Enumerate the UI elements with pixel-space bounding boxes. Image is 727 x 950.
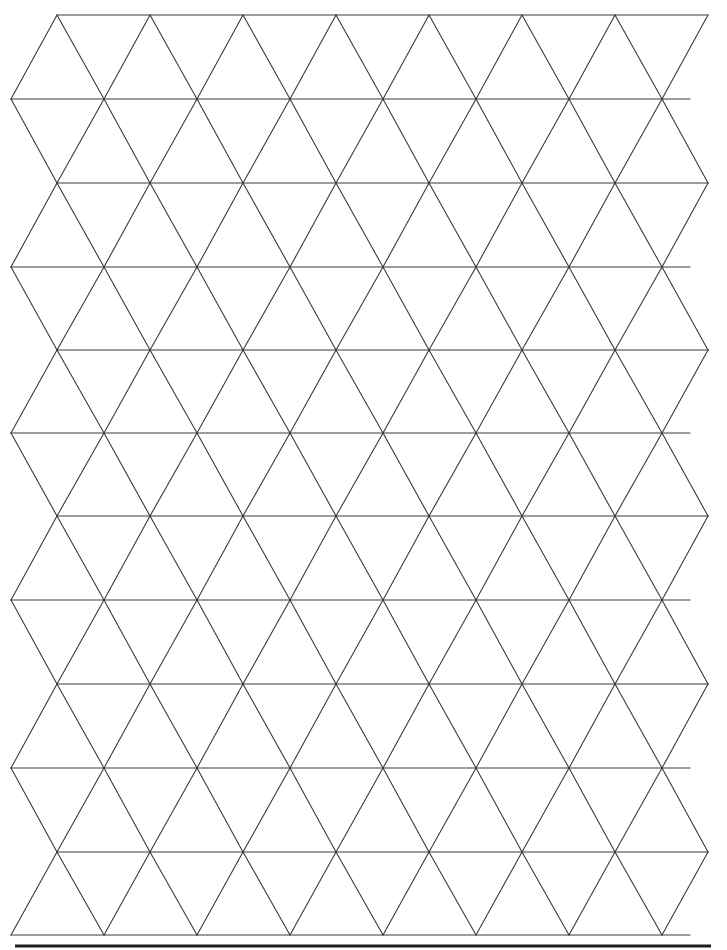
diagonal-grid-line [11, 99, 57, 183]
grid-lines [11, 15, 708, 935]
diagonal-grid-line [243, 15, 290, 99]
diagonal-grid-line [104, 15, 150, 99]
diagonal-grid-line [476, 350, 522, 433]
diagonal-grid-line [197, 267, 243, 350]
diagonal-grid-line [615, 267, 662, 350]
diagonal-grid-line [336, 852, 383, 935]
diagonal-grid-line [569, 99, 615, 183]
diagonal-grid-line [522, 99, 569, 183]
diagonal-grid-line [336, 684, 383, 768]
diagonal-grid-line [11, 600, 57, 684]
diagonal-grid-line [569, 684, 615, 768]
diagonal-grid-line [429, 516, 476, 600]
diagonal-grid-line [243, 267, 290, 350]
diagonal-grid-line [569, 350, 615, 433]
diagonal-grid-line [429, 433, 476, 516]
diagonal-grid-line [150, 600, 197, 684]
diagonal-grid-line [476, 99, 522, 183]
diagonal-grid-line [383, 600, 429, 684]
diagonal-grid-line [336, 600, 383, 684]
diagonal-grid-line [429, 15, 476, 99]
diagonal-grid-line [11, 852, 57, 935]
diagonal-grid-line [150, 852, 197, 935]
diagonal-grid-line [150, 768, 197, 852]
diagonal-grid-line [336, 350, 383, 433]
diagonal-grid-line [569, 768, 615, 852]
diagonal-grid-line [522, 684, 569, 768]
diagonal-grid-line [615, 684, 662, 768]
diagonal-grid-line [243, 768, 290, 852]
diagonal-grid-line [383, 768, 429, 852]
diagonal-grid-line [662, 852, 708, 935]
diagonal-grid-line [150, 15, 197, 99]
diagonal-grid-line [615, 433, 662, 516]
diagonal-grid-line [11, 15, 57, 99]
diagonal-grid-line [476, 768, 522, 852]
diagonal-grid-line [243, 684, 290, 768]
diagonal-grid-line [150, 183, 197, 267]
diagonal-grid-line [197, 433, 243, 516]
diagonal-grid-line [197, 684, 243, 768]
diagonal-grid-line [243, 852, 290, 935]
diagonal-grid-line [150, 99, 197, 183]
diagonal-grid-line [336, 183, 383, 267]
diagonal-grid-line [383, 267, 429, 350]
diagonal-grid-line [662, 684, 708, 768]
diagonal-grid-line [569, 183, 615, 267]
diagonal-grid-line [57, 267, 104, 350]
diagonal-grid-line [150, 267, 197, 350]
diagonal-grid-line [476, 852, 522, 935]
diagonal-grid-line [476, 183, 522, 267]
diagonal-grid-line [336, 99, 383, 183]
diagonal-grid-line [197, 15, 243, 99]
diagonal-grid-line [522, 516, 569, 600]
diagonal-grid-line [290, 99, 336, 183]
diagonal-grid-line [429, 684, 476, 768]
diagonal-grid-line [383, 183, 429, 267]
diagonal-grid-line [383, 99, 429, 183]
diagonal-grid-line [383, 684, 429, 768]
diagonal-grid-line [290, 183, 336, 267]
diagonal-grid-line [383, 15, 429, 99]
diagonal-grid-line [104, 684, 150, 768]
diagonal-grid-line [243, 600, 290, 684]
diagonal-grid-line [11, 433, 57, 516]
diagonal-grid-line [522, 15, 569, 99]
diagonal-grid-line [383, 516, 429, 600]
diagonal-grid-line [290, 684, 336, 768]
diagonal-grid-line [383, 852, 429, 935]
diagonal-grid-line [290, 267, 336, 350]
diagonal-grid-line [615, 852, 662, 935]
diagonal-grid-line [57, 684, 104, 768]
diagonal-grid-line [615, 99, 662, 183]
diagonal-grid-line [662, 99, 708, 183]
diagonal-grid-line [662, 15, 708, 99]
diagonal-grid-line [104, 183, 150, 267]
diagonal-grid-line [522, 350, 569, 433]
diagonal-grid-line [429, 768, 476, 852]
diagonal-grid-line [615, 350, 662, 433]
diagonal-grid-line [476, 684, 522, 768]
diagonal-grid-line [429, 852, 476, 935]
diagonal-grid-line [150, 350, 197, 433]
diagonal-grid-line [104, 516, 150, 600]
diagonal-grid-line [57, 99, 104, 183]
diagonal-grid-line [615, 183, 662, 267]
diagonal-grid-line [336, 516, 383, 600]
diagonal-grid-line [336, 433, 383, 516]
diagonal-grid-line [290, 600, 336, 684]
diagonal-grid-line [11, 350, 57, 433]
diagonal-grid-line [11, 183, 57, 267]
diagonal-grid-line [11, 768, 57, 852]
diagonal-grid-line [662, 183, 708, 267]
diagonal-grid-line [57, 350, 104, 433]
diagonal-grid-line [662, 768, 708, 852]
diagonal-grid-line [197, 768, 243, 852]
diagonal-grid-line [197, 852, 243, 935]
diagonal-grid-line [197, 99, 243, 183]
diagonal-grid-line [615, 600, 662, 684]
diagonal-grid-line [243, 99, 290, 183]
diagonal-grid-line [476, 15, 522, 99]
diagonal-grid-line [383, 433, 429, 516]
diagonal-grid-line [569, 852, 615, 935]
